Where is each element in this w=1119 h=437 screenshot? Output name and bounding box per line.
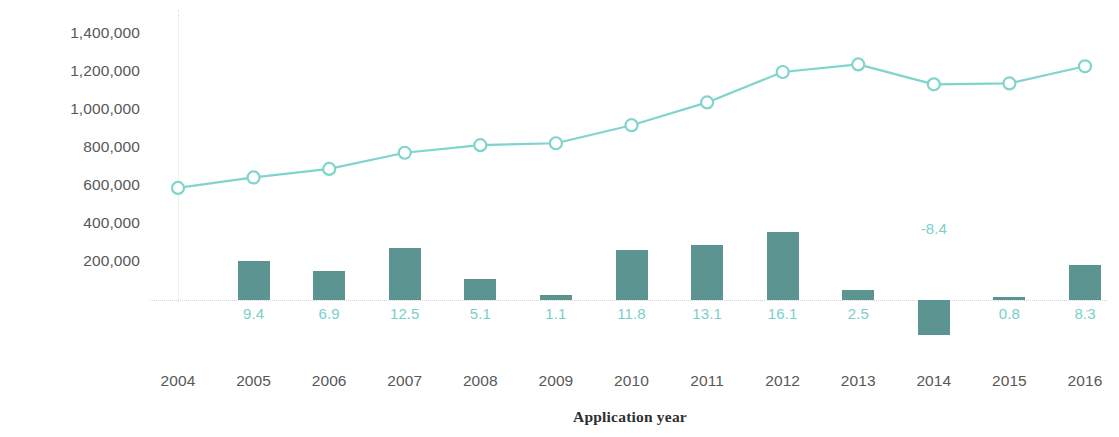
bar-value-label: 16.1: [768, 305, 798, 322]
line-data-point-marker: [399, 147, 411, 159]
line-data-point-marker: [928, 78, 940, 90]
bar-value-label: 9.4: [243, 305, 264, 322]
bar: [616, 250, 648, 300]
x-axis-tick-label: 2016: [1068, 372, 1103, 390]
bar: [389, 248, 421, 301]
line-data-point-marker: [626, 119, 638, 131]
y-axis-tick-label: 1,000,000: [28, 100, 140, 118]
line-data-point-marker: [701, 96, 713, 108]
line-data-point-marker: [1079, 60, 1091, 72]
bar-value-label: 11.8: [617, 305, 645, 322]
bar: [238, 261, 270, 300]
y-axis-tick-label: 400,000: [28, 214, 140, 232]
bar: [464, 279, 496, 300]
bar-value-label: -8.4: [921, 220, 947, 237]
y-axis-tick-label: 600,000: [28, 176, 140, 194]
y-axis-tick-label: 200,000: [28, 252, 140, 270]
y-axis-tick-labels: 1,400,0001,200,0001,000,000800,000600,00…: [28, 0, 140, 320]
bar-value-label: 6.9: [319, 305, 340, 322]
bar: [767, 232, 799, 300]
x-axis-tick-label: 2010: [614, 372, 649, 390]
line-data-point-marker: [1003, 77, 1015, 89]
line-data-point-marker: [474, 139, 486, 151]
bar: [1069, 265, 1101, 300]
bar-value-label: 8.3: [1074, 305, 1095, 322]
chart-container: Application design count 1,400,0001,200,…: [0, 0, 1119, 437]
line-data-point-marker: [323, 163, 335, 175]
x-axis-tick-label: 2013: [841, 372, 876, 390]
x-axis-tick-label: 2015: [992, 372, 1027, 390]
x-axis-tick-label: 2014: [916, 372, 951, 390]
y-axis-tick-label: 800,000: [28, 138, 140, 156]
line-data-point-marker: [777, 66, 789, 78]
line-data-point-marker: [852, 58, 864, 70]
line-data-point-marker: [550, 137, 562, 149]
bar-value-label: 1.1: [545, 305, 566, 322]
bar: [918, 300, 950, 335]
bar: [993, 297, 1025, 300]
bar-value-label: 2.5: [848, 305, 869, 322]
x-axis-tick-label: 2012: [765, 372, 800, 390]
bar-value-label: 0.8: [999, 305, 1020, 322]
x-axis-tick-label: 2011: [690, 372, 724, 390]
x-axis-tick-label: 2009: [538, 372, 573, 390]
bar: [842, 290, 874, 301]
x-axis-tick-label: 2008: [463, 372, 498, 390]
x-axis-tick-label: 2005: [236, 372, 271, 390]
bar-value-label: 12.5: [390, 305, 420, 322]
bar-value-label: 5.1: [470, 305, 491, 322]
plot-area: 9.46.912.55.11.111.813.116.12.5-8.40.88.…: [150, 10, 1105, 350]
bar: [540, 295, 572, 300]
bar: [691, 245, 723, 300]
y-axis-tick-label: 1,400,000: [28, 24, 140, 42]
bar: [313, 271, 345, 300]
x-axis-tick-label: 2006: [312, 372, 347, 390]
y-axis-tick-label: 1,200,000: [28, 62, 140, 80]
x-axis-tick-label: 2004: [161, 372, 196, 390]
line-data-point-marker: [248, 171, 260, 183]
bar-value-label: 13.1: [692, 305, 722, 322]
x-axis-tick-label: 2007: [387, 372, 422, 390]
x-axis-title: Application year: [150, 408, 1110, 426]
line-data-point-marker: [172, 182, 184, 194]
